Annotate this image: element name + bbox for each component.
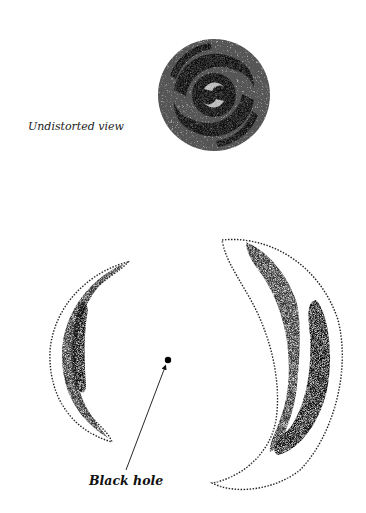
undistorted-view-label: Undistorted view [28, 120, 124, 133]
black-hole-dot [165, 357, 171, 363]
spiral-galaxy [158, 39, 270, 151]
right-lensed-arc [212, 239, 342, 489]
lensing-figure [0, 0, 366, 513]
pointer-arrow [126, 367, 165, 470]
left-lensed-arc [50, 262, 128, 442]
black-hole-label: Black hole [89, 473, 163, 488]
